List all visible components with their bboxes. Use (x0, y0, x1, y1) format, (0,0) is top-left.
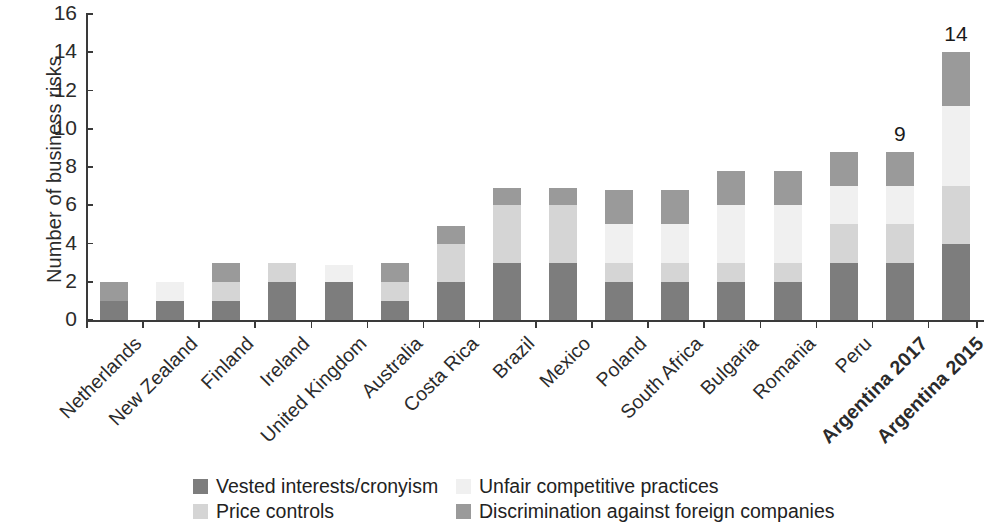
bar-segment (605, 263, 633, 282)
bar-new-zealand[interactable] (156, 282, 184, 320)
bar-finland[interactable] (212, 263, 240, 320)
x-axis-tick-mark (198, 320, 200, 328)
x-axis-tick-mark (423, 320, 425, 328)
bar-segment (325, 265, 353, 282)
bar-segment (605, 190, 633, 224)
y-axis-tick-label: 16 (54, 1, 77, 25)
x-axis-tick-mark (311, 320, 313, 328)
bar-segment (212, 282, 240, 301)
y-axis-tick-mark (86, 243, 93, 245)
bar-segment (830, 186, 858, 224)
x-axis-tick-mark (976, 320, 978, 328)
bar-segment (717, 171, 745, 205)
plot-area: 0246810121416914 (86, 14, 984, 320)
bar-segment (549, 188, 577, 205)
x-axis-tick-mark (816, 320, 818, 328)
bar-segment (156, 282, 184, 301)
x-axis-tick-mark (254, 320, 256, 328)
x-axis-tick-mark (703, 320, 705, 328)
bar-segment (325, 282, 353, 320)
bar-peru[interactable] (830, 152, 858, 320)
bar-segment (661, 190, 689, 224)
bar-segment (661, 263, 689, 282)
bar-segment (381, 263, 409, 282)
bar-segment (942, 186, 970, 243)
bar-romania[interactable] (774, 171, 802, 320)
bar-segment (381, 301, 409, 320)
bar-segment (156, 301, 184, 320)
bar-segment (549, 263, 577, 320)
bar-segment (100, 301, 128, 320)
y-axis-tick-label: 6 (65, 192, 77, 216)
y-axis-tick-label: 4 (65, 231, 77, 255)
bar-segment (774, 171, 802, 205)
y-axis-tick-label: 8 (65, 154, 77, 178)
x-axis-tick-mark (928, 320, 930, 328)
y-axis-tick-label: 0 (65, 307, 77, 331)
bar-segment (774, 205, 802, 262)
bar-segment (605, 224, 633, 262)
bar-segment (886, 224, 914, 262)
bar-ireland[interactable] (268, 263, 296, 320)
y-axis-tick-mark (86, 128, 93, 130)
bar-segment (774, 263, 802, 282)
bar-segment (774, 282, 802, 320)
bar-bulgaria[interactable] (717, 171, 745, 320)
x-axis-tick-mark (142, 320, 144, 328)
bar-segment (886, 152, 914, 186)
bar-south-africa[interactable] (661, 190, 689, 320)
bar-segment (717, 263, 745, 282)
bar-segment (381, 282, 409, 301)
bar-segment (886, 186, 914, 224)
bar-segment (661, 282, 689, 320)
bar-value-label: 9 (894, 122, 906, 146)
y-axis-title: Number of business risks (43, 20, 66, 320)
bar-segment (605, 282, 633, 320)
bar-segment (830, 152, 858, 186)
bar-segment (437, 282, 465, 320)
bar-poland[interactable] (605, 190, 633, 320)
bar-segment (268, 282, 296, 320)
bar-segment (942, 244, 970, 321)
y-axis-tick-mark (86, 204, 93, 206)
bar-segment (437, 244, 465, 282)
bar-united-kingdom[interactable] (325, 265, 353, 320)
bar-segment (493, 205, 521, 262)
x-axis-tick-mark (647, 320, 649, 328)
y-axis-tick-mark (86, 51, 93, 53)
bar-argentina-2017[interactable] (886, 152, 914, 320)
x-axis-tick-mark (872, 320, 874, 328)
bar-netherlands[interactable] (100, 282, 128, 320)
bar-segment (661, 224, 689, 262)
stacked-bar-chart: Number of business risks 024681012141691… (0, 0, 990, 523)
y-axis-tick-label: 14 (54, 39, 77, 63)
y-axis-tick-mark (86, 166, 93, 168)
x-axis-tick-mark (479, 320, 481, 328)
bar-segment (493, 188, 521, 205)
bar-segment (717, 282, 745, 320)
y-axis-tick-mark (86, 281, 93, 283)
bar-segment (100, 282, 128, 301)
y-axis-tick-label: 10 (54, 116, 77, 140)
bar-mexico[interactable] (549, 188, 577, 320)
bar-argentina-2015[interactable] (942, 52, 970, 320)
bar-segment (942, 106, 970, 186)
bar-segment (830, 263, 858, 320)
bar-costa-rica[interactable] (437, 226, 465, 320)
bar-segment (268, 263, 296, 282)
bar-segment (212, 263, 240, 282)
bar-australia[interactable] (381, 263, 409, 320)
x-axis-tick-mark (760, 320, 762, 328)
bar-value-label: 14 (944, 22, 967, 46)
x-axis-tick-mark (367, 320, 369, 328)
x-axis-tick-mark (591, 320, 593, 328)
bar-segment (493, 263, 521, 320)
bar-segment (549, 205, 577, 262)
bar-segment (830, 224, 858, 262)
bar-brazil[interactable] (493, 188, 521, 320)
bar-segment (942, 52, 970, 106)
bar-segment (886, 263, 914, 320)
y-axis-tick-label: 12 (54, 78, 77, 102)
y-axis-tick-mark (86, 90, 93, 92)
bar-segment (212, 301, 240, 320)
